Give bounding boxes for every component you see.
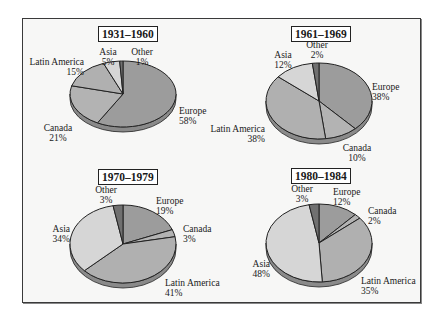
label-canada-1980: Canada2% — [368, 206, 404, 226]
pie-chart-1980-1984 — [0, 0, 435, 321]
label-asia-1980: Asia48% — [246, 259, 270, 279]
label-latin-america-1980: Latin America35% — [361, 276, 421, 296]
label-other-1980: Other3% — [288, 184, 316, 204]
label-europe-1980: Europe12% — [333, 187, 373, 207]
